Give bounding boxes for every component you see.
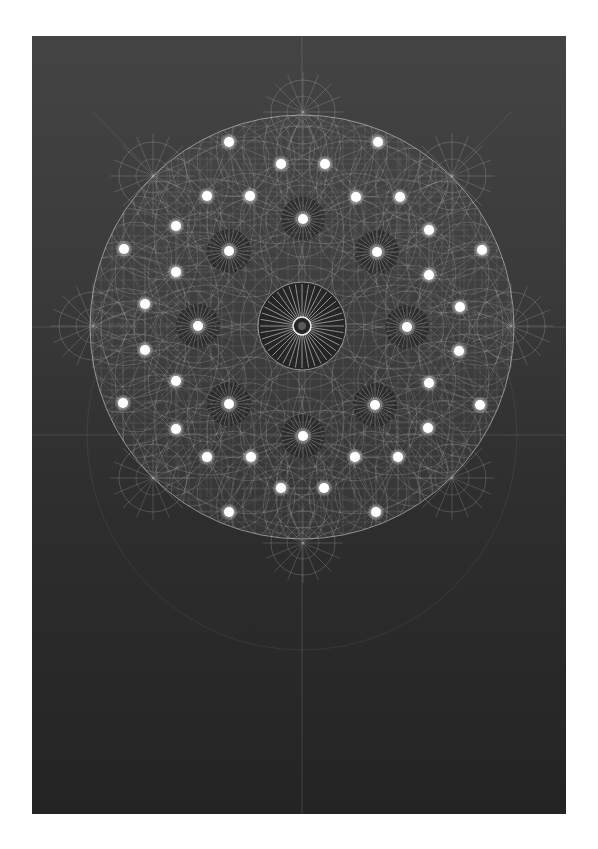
center-rosette — [258, 282, 346, 370]
artwork-panel: Geometric mandala drawing on dark paper — [32, 36, 566, 814]
mandala-drawing — [32, 36, 566, 814]
